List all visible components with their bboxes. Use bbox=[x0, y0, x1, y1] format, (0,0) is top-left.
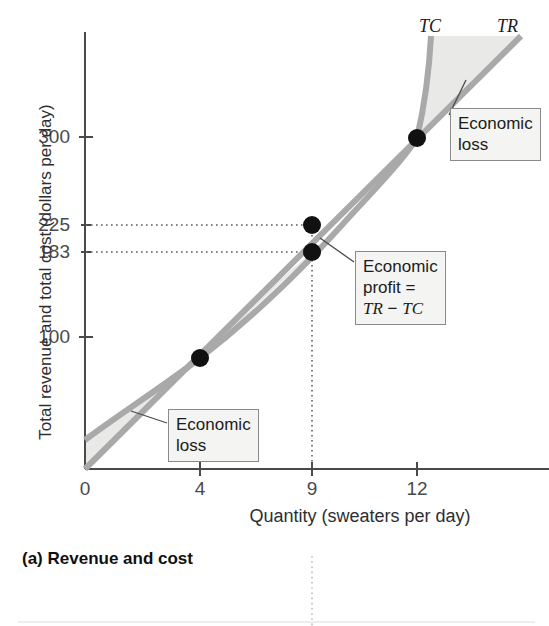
x-tick-label-0: 0 bbox=[69, 478, 101, 500]
chart-plot-area bbox=[0, 0, 549, 626]
callout-economic-loss-top-line1: Economic bbox=[458, 113, 533, 134]
x-tick-label-12: 12 bbox=[401, 478, 433, 500]
callout-term-tc: TC bbox=[402, 299, 423, 318]
callout-minus-operator: − bbox=[388, 299, 398, 318]
callout-economic-profit-line1: Economic bbox=[363, 256, 438, 277]
curve-label-total-cost: TC bbox=[419, 16, 441, 37]
leader-line-economic-profit bbox=[320, 238, 354, 262]
callout-economic-profit-line2: profit = bbox=[363, 277, 438, 298]
callout-economic-loss-bottom-line2: loss bbox=[176, 435, 251, 456]
x-tick-label-9: 9 bbox=[296, 478, 328, 500]
marker-breakeven-high bbox=[408, 129, 426, 147]
callout-economic-loss-bottom: Economic loss bbox=[168, 409, 259, 462]
figure-revenue-and-cost: 300 225 183 100 0 4 9 12 Total revenue a… bbox=[0, 0, 549, 626]
curve-label-total-revenue: TR bbox=[497, 16, 518, 37]
x-tick-label-4: 4 bbox=[184, 478, 216, 500]
callout-economic-loss-top: Economic loss bbox=[450, 108, 541, 161]
marker-profit-tc bbox=[303, 243, 321, 261]
callout-term-tr: TR bbox=[363, 299, 383, 318]
marker-profit-tr bbox=[303, 216, 321, 234]
figure-caption: (a) Revenue and cost bbox=[22, 549, 193, 569]
curve-total-cost bbox=[85, 36, 431, 440]
callout-economic-loss-bottom-line1: Economic bbox=[176, 414, 251, 435]
y-axis-label: Total revenue and total cost (dollars pe… bbox=[36, 92, 56, 452]
callout-economic-loss-top-line2: loss bbox=[458, 134, 533, 155]
marker-breakeven-low bbox=[191, 349, 209, 367]
callout-economic-profit: Economic profit = TR − TC bbox=[355, 251, 446, 325]
x-axis-label: Quantity (sweaters per day) bbox=[180, 506, 540, 527]
callout-economic-profit-line3: TR − TC bbox=[363, 298, 438, 319]
